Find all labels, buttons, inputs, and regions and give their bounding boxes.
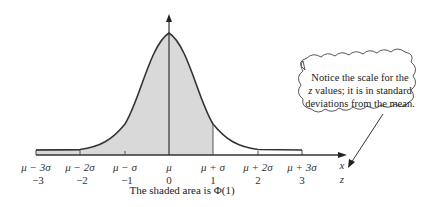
z-tick-label: 2 [255, 174, 261, 186]
callout-line-1: Notice the scale for the [300, 71, 420, 84]
x-axis-arrowhead [338, 152, 347, 158]
callout-line-2-text: values; it is in standard [312, 85, 411, 96]
z-tick-label: −2 [76, 174, 88, 186]
mean-axis-arrowhead [166, 14, 172, 22]
x-axis-label: x [340, 159, 345, 171]
x-tick-label: μ + 3σ [287, 161, 316, 173]
callout-text: Notice the scale for the z values; it is… [300, 71, 420, 110]
z-axis-label: z [340, 173, 344, 185]
x-tick-label: μ − σ [113, 161, 137, 173]
x-tick-label: μ + σ [201, 161, 225, 173]
shaded-area [36, 33, 213, 155]
z-tick-label: −3 [32, 174, 44, 186]
x-tick-label: μ [166, 161, 172, 173]
x-tick-label: μ − 2σ [65, 161, 94, 173]
x-tick-label: μ + 2σ [243, 161, 272, 173]
callout-line-3: deviations from the mean. [300, 97, 420, 110]
caption: The shaded area is Φ(1) [129, 184, 234, 196]
callout-arrow [351, 114, 383, 163]
z-tick-label: 3 [299, 174, 305, 186]
x-tick-label: μ − 3σ [21, 161, 50, 173]
callout-line-2: z values; it is in standard [300, 84, 420, 97]
